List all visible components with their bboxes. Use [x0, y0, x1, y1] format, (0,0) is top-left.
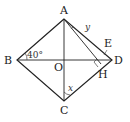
angle-label-40: 40°: [27, 50, 43, 60]
label-o: O: [54, 61, 63, 74]
var-x-label: x: [68, 83, 73, 93]
geometry-figure: A B C D O E H 40° x y: [0, 0, 130, 122]
var-y-label: y: [84, 22, 91, 32]
label-a: A: [59, 4, 69, 17]
label-c: C: [60, 104, 68, 117]
label-h: H: [98, 68, 108, 81]
label-d: D: [114, 54, 123, 67]
label-e: E: [104, 37, 112, 50]
segment-ah: [64, 19, 101, 64]
label-b: B: [4, 54, 12, 67]
